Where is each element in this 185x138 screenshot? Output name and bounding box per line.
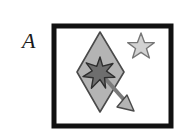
figure-canvas: A xyxy=(0,0,185,138)
figure-root: A xyxy=(0,0,185,138)
panel-label-a: A xyxy=(20,28,36,53)
